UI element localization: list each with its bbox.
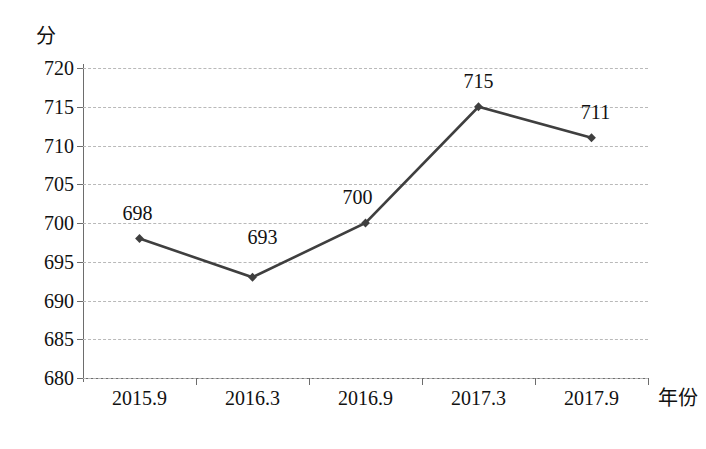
x-axis-tick-label: 2017.9 <box>564 388 619 408</box>
data-point-marker <box>135 234 144 243</box>
x-axis-tick-label: 2017.3 <box>451 388 506 408</box>
y-axis-tick-label: 720 <box>44 58 74 78</box>
x-axis-tick <box>309 378 310 385</box>
y-axis-tick <box>77 378 83 379</box>
data-point-marker <box>248 273 257 282</box>
gridline <box>83 378 648 379</box>
y-axis-tick-label: 715 <box>44 97 74 117</box>
data-point-label: 715 <box>464 71 494 91</box>
line-chart-figure: 分 680685690695700705710715720 2015.92016… <box>0 0 706 449</box>
x-axis-tick-label: 2016.3 <box>225 388 280 408</box>
data-point-marker <box>587 133 596 142</box>
data-point-label: 693 <box>248 227 278 247</box>
y-axis-tick-label: 690 <box>44 291 74 311</box>
data-point-label: 700 <box>343 187 373 207</box>
y-axis-tick-label: 710 <box>44 136 74 156</box>
x-axis-tick-label: 2016.9 <box>338 388 393 408</box>
y-axis-tick-label: 695 <box>44 252 74 272</box>
x-axis-tick <box>196 378 197 385</box>
y-axis-tick-label: 705 <box>44 174 74 194</box>
y-axis-tick-label: 700 <box>44 213 74 233</box>
x-axis-tick <box>422 378 423 385</box>
data-point-label: 711 <box>581 102 610 122</box>
x-axis-title: 年份 <box>658 388 698 408</box>
y-axis-tick-label: 685 <box>44 329 74 349</box>
plot-area: 680685690695700705710715720 2015.92016.3… <box>83 68 648 378</box>
data-point-label: 698 <box>123 203 153 223</box>
x-axis-end-tick <box>648 378 649 385</box>
y-axis-title: 分 <box>36 26 56 46</box>
series-line-group <box>83 68 648 378</box>
y-axis-tick-label: 680 <box>44 368 74 388</box>
x-axis-tick-label: 2015.9 <box>112 388 167 408</box>
x-axis-tick <box>535 378 536 385</box>
